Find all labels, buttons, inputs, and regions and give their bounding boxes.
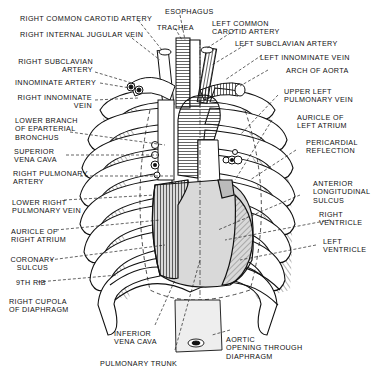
label-aortic-opening-through-diaphragm: AORTIC OPENING THROUGH DIAPHRAGM <box>226 336 303 361</box>
label-left-subclavian-artery: LEFT SUBCLAVIAN ARTERY <box>235 40 338 48</box>
label-arch-of-aorta: ARCH OF AORTA <box>286 67 349 75</box>
svc-shape <box>158 100 174 180</box>
label-anterior-longitudinal-sulcus: ANTERIOR LONGITUDINAL SULCUS <box>313 180 370 205</box>
label-upper-left-pulmonary-vein: UPPER LEFT PULMONARY VEIN <box>284 88 353 105</box>
label-superior-vena-cava: SUPERIOR VENA CAVA <box>14 148 57 165</box>
label-inferior-vena-cava: INFERIOR VENA CAVA <box>114 330 157 347</box>
label-left-innominate-vein: LEFT INNOMINATE VEIN <box>260 54 350 62</box>
label-auricle-of-right-atrium: AURICLE OF RIGHT ATRIUM <box>11 228 66 245</box>
label-lower-right-pulmonary-vein: LOWER RIGHT PULMONARY VEIN <box>12 199 81 216</box>
label-right-pulmonary-artery: RIGHT PULMONARY ARTERY <box>13 170 88 187</box>
label-right-subclavian-artery: RIGHT SUBCLAVIAN ARTERY <box>10 58 93 75</box>
label-right-internal-jugular-vein: RIGHT INTERNAL JUGULAR VEIN <box>20 31 143 39</box>
label-right-innominate-vein: RIGHT INNOMINATE VEIN <box>10 94 92 111</box>
thoracic-heart-diagram: RIGHT COMMON CAROTID ARTERY RIGHT INTERN… <box>0 0 375 375</box>
aortic-opening-shape <box>175 300 222 352</box>
label-right-ventricle: RIGHT VENTRICLE <box>319 211 363 228</box>
heart-shape <box>152 180 253 287</box>
label-coronary-sulcus: CORONARY SULCUS <box>10 256 55 273</box>
label-innominate-artery: INNOMINATE ARTERY <box>15 79 96 87</box>
label-pulmonary-trunk: PULMONARY TRUNK <box>100 360 177 368</box>
label-trachea: TRACHEA <box>157 24 194 32</box>
label-right-common-carotid-artery: RIGHT COMMON CAROTID ARTERY <box>20 15 152 23</box>
label-auricle-of-left-atrium: AURICLE OF LEFT ATRIUM <box>297 114 347 131</box>
label-ninth-rib: 9TH RIB <box>16 279 46 287</box>
label-left-ventricle: LEFT VENTRICLE <box>323 238 367 255</box>
label-lower-branch-eparterial-bronchus: LOWER BRANCH OF EPARTERIAL BRONCHUS <box>15 117 78 142</box>
label-right-cupola-of-diaphragm: RIGHT CUPOLA OF DIAPHRAGM <box>9 298 69 315</box>
label-esophagus: ESOPHAGUS <box>165 8 214 16</box>
label-left-common-carotid-artery: LEFT COMMON CAROTID ARTERY <box>212 20 280 37</box>
label-pericardial-reflection: PERICARDIAL REFLECTION <box>306 139 358 156</box>
